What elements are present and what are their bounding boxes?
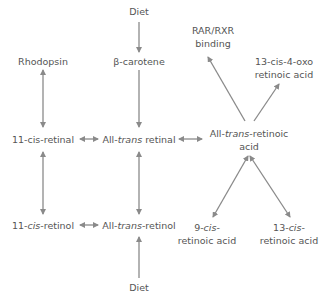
arrow-retinoic-to-rar-rxr [208,57,245,121]
node-rar-rxr-binding: RAR/RXR binding [192,24,234,50]
retinoid-metabolism-diagram: Diet β-carotene Rhodopsin RAR/RXR bindin… [0,0,320,300]
node-rhodopsin: Rhodopsin [18,55,68,68]
node-all-trans-retinoic-acid: All-trans-retinoic acid [210,127,289,153]
arrow-retinoic-13cis [250,156,290,217]
node-11-cis-retinal: 11-cis-retinal [12,133,74,146]
node-beta-carotene: β-carotene [113,55,164,68]
node-9-cis-retinoic-acid: 9-cis- retinoic acid [178,221,236,247]
arrow-retinoic-to-oxo [254,84,279,121]
node-diet-top: Diet [129,5,149,18]
node-13-cis-retinoic-acid: 13-cis- retinoic acid [260,221,318,247]
node-11-cis-retinol: 11-cis-retinol [12,219,74,232]
node-all-trans-retinol: All-trans-retinol [102,219,175,232]
node-diet-bottom: Diet [129,281,149,294]
node-13-cis-4-oxo-retinoic-acid: 13-cis-4-oxo retinoic acid [255,55,313,81]
node-all-trans-retinal: All-trans retinal [102,133,175,146]
arrow-retinoic-9cis [213,156,248,217]
